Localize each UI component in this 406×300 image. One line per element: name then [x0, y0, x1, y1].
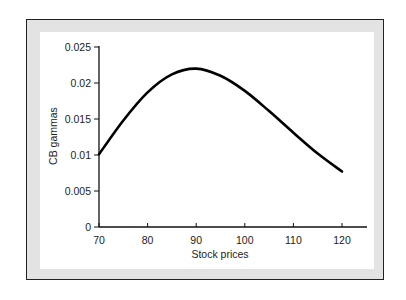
y-tick-label: 0.02	[71, 77, 92, 89]
y-axis-title: CB gammas	[47, 107, 59, 165]
x-tick-label: 100	[236, 234, 254, 246]
y-tick-label: 0.005	[65, 185, 91, 197]
y-tick-label: 0.025	[65, 41, 91, 53]
x-tick-label: 80	[142, 234, 154, 246]
axes	[99, 46, 367, 227]
y-ticks: 00.0050.010.0150.020.025	[65, 41, 99, 233]
y-tick-label: 0.01	[71, 149, 92, 161]
y-tick-label: 0	[85, 221, 91, 233]
gamma-curve	[99, 69, 342, 172]
x-tick-label: 120	[333, 234, 351, 246]
x-tick-label: 110	[285, 234, 302, 246]
x-tick-label: 70	[93, 234, 105, 246]
x-tick-label: 90	[190, 234, 202, 246]
y-tick-label: 0.015	[65, 113, 91, 125]
line-chart: 00.0050.010.0150.020.025 708090100110120…	[0, 0, 406, 300]
x-axis-title: Stock prices	[191, 248, 248, 260]
